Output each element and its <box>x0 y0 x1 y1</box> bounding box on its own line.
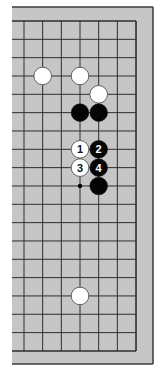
white-stone <box>90 86 108 104</box>
go-board-diagram: 1234 <box>0 0 158 368</box>
move-number: 1 <box>77 143 83 155</box>
white-stone <box>71 67 89 85</box>
move-number: 4 <box>96 162 103 174</box>
black-stone-4: 4 <box>90 159 108 177</box>
white-stone <box>34 67 52 85</box>
move-number: 3 <box>77 162 83 174</box>
move-number: 2 <box>96 143 102 155</box>
black-stone <box>90 104 108 122</box>
black-stone-2: 2 <box>90 141 108 159</box>
black-stone <box>90 177 108 195</box>
white-stone-1: 1 <box>71 141 89 159</box>
markers <box>78 184 82 188</box>
white-stone <box>71 287 89 305</box>
white-stone-3: 3 <box>71 159 89 177</box>
black-stone <box>71 104 89 122</box>
marker-dot <box>78 184 82 188</box>
